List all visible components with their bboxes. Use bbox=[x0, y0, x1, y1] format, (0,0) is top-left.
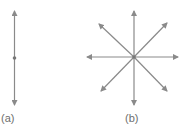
panel-b-diagram bbox=[87, 11, 178, 105]
arrow-b-down-left bbox=[101, 57, 134, 91]
panel-b-label: (b) bbox=[125, 112, 138, 124]
arrow-b-up-left bbox=[99, 24, 134, 57]
panel-a-label: (a) bbox=[1, 112, 14, 124]
center-point-b bbox=[132, 55, 136, 59]
panel-a-diagram bbox=[13, 11, 17, 105]
figure-canvas bbox=[0, 0, 186, 135]
arrow-b-up-right bbox=[134, 23, 167, 57]
arrow-b-down-right bbox=[134, 57, 167, 91]
center-point-a bbox=[13, 56, 17, 60]
